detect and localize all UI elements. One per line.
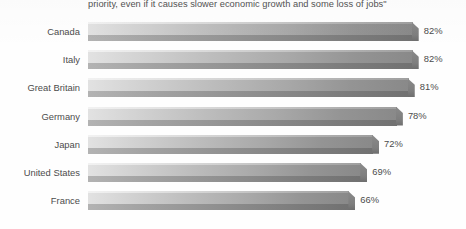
- bar-row: United States69%: [0, 163, 466, 189]
- value-label: 78%: [408, 109, 427, 122]
- bar-end-cap: [360, 163, 367, 182]
- bar-base-face: [88, 148, 373, 154]
- category-label: Italy: [0, 53, 80, 66]
- bar-base-face: [88, 176, 361, 182]
- bar-top-face: [88, 135, 373, 148]
- bar-end-cap: [412, 50, 419, 69]
- bar-row: France66%: [0, 191, 466, 217]
- bar[interactable]: [88, 191, 349, 211]
- value-label: 72%: [384, 137, 403, 150]
- category-label: Japan: [0, 138, 80, 151]
- bar-row: Japan72%: [0, 135, 466, 161]
- bar-end-cap: [372, 135, 379, 154]
- bar-end-cap: [408, 78, 415, 97]
- bar-chart: priority, even if it causes slower econo…: [0, 0, 466, 229]
- bar[interactable]: [88, 78, 409, 98]
- value-label: 66%: [360, 193, 379, 206]
- bar-base-face: [88, 120, 397, 126]
- bar-top-face: [88, 78, 409, 91]
- bar-top-face: [88, 107, 397, 120]
- value-label: 82%: [424, 52, 443, 65]
- bar-row: Great Britain81%: [0, 78, 466, 104]
- category-label: United States: [0, 166, 80, 179]
- bar-base-face: [88, 63, 413, 69]
- value-label: 81%: [420, 80, 439, 93]
- bar-top-face: [88, 22, 413, 35]
- bar[interactable]: [88, 163, 361, 183]
- bar-top-face: [88, 191, 349, 204]
- bar[interactable]: [88, 50, 413, 70]
- bar-end-cap: [396, 107, 403, 126]
- bar-base-face: [88, 91, 409, 97]
- category-label: France: [0, 194, 80, 207]
- bar-top-face: [88, 50, 413, 63]
- bar-base-face: [88, 35, 413, 41]
- bar-row: Germany78%: [0, 107, 466, 133]
- category-label: Germany: [0, 110, 80, 123]
- value-label: 82%: [424, 24, 443, 37]
- bar-row: Italy82%: [0, 50, 466, 76]
- category-label: Canada: [0, 25, 80, 38]
- bar-row: Canada82%: [0, 22, 466, 48]
- value-label: 69%: [372, 165, 391, 178]
- bar-base-face: [88, 204, 349, 210]
- bar[interactable]: [88, 107, 397, 127]
- bar-end-cap: [412, 22, 419, 41]
- plot-area: Canada82%Italy82%Great Britain81%Germany…: [0, 0, 466, 229]
- bar-top-face: [88, 163, 361, 176]
- category-label: Great Britain: [0, 81, 80, 94]
- bar[interactable]: [88, 22, 413, 42]
- bar[interactable]: [88, 135, 373, 155]
- bar-end-cap: [348, 191, 355, 210]
